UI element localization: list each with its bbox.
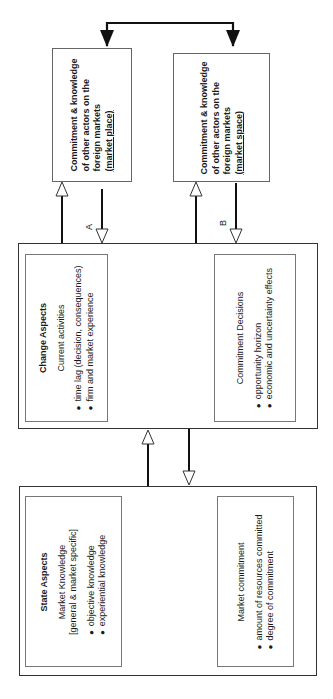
market-commitment-heading: Market commitment xyxy=(235,514,247,649)
market-knowledge-text: State Aspects Market Knowledge [general … xyxy=(39,528,109,634)
hollow-arrow-up-icon xyxy=(190,182,202,196)
hollow-arrow-down-icon xyxy=(183,471,195,485)
bullet-item: experiential knowledge xyxy=(97,528,109,634)
market-space-box: Commitment & knowledge of other actors o… xyxy=(173,53,270,182)
text-line: of other actors on the xyxy=(210,61,222,174)
hollow-arrow-up-icon xyxy=(56,182,68,196)
state-aspects-title: State Aspects xyxy=(39,528,51,634)
state-aspects-box: State Aspects Market Knowledge [general … xyxy=(19,486,317,676)
filled-arrow-down-icon xyxy=(100,30,114,47)
market-knowledge-subheading: [general & market specific] xyxy=(68,528,80,634)
change-aspects-box: Change Aspects Current activities time l… xyxy=(18,243,318,429)
filled-arrow-down-icon xyxy=(226,30,240,47)
text-line: Commitment & knowledge xyxy=(199,61,211,174)
text-line: Commitment & knowledge xyxy=(69,58,81,171)
current-activities-box: Change Aspects Current activities time l… xyxy=(25,254,108,422)
bullet-item: economic and uncertainty effects xyxy=(264,268,276,408)
current-activities-text: Change Aspects Current activities time l… xyxy=(38,266,96,411)
market-knowledge-heading: Market Knowledge xyxy=(56,528,68,634)
bullet-item: amount of resources committed xyxy=(253,514,265,649)
bullet-item: opportunity horizon xyxy=(252,268,264,408)
change-aspects-title: Change Aspects xyxy=(38,266,50,411)
market-space-text: Commitment & knowledge of other actors o… xyxy=(199,61,245,174)
market-commitment-text: Market commitment amount of resources co… xyxy=(235,514,276,649)
commitment-decisions-heading: Commitment Decisions xyxy=(235,268,247,408)
bullet-item: degree of commitment xyxy=(264,514,276,649)
commitment-decisions-box: Commitment Decisions opportunity horizon… xyxy=(214,254,296,422)
text-line: of other actors on the xyxy=(81,58,93,171)
hollow-arrow-down-icon xyxy=(96,229,108,243)
commitment-decisions-text: Commitment Decisions opportunity horizon… xyxy=(235,268,276,408)
text-line: foreign markets xyxy=(222,61,234,174)
text-line: foreign markets xyxy=(92,58,104,171)
current-activities-heading: Current activities xyxy=(55,266,67,411)
bullet-item: firm and market experience xyxy=(84,266,96,411)
market-place-text: Commitment & knowledge of other actors o… xyxy=(69,58,115,171)
market-knowledge-box: State Aspects Market Knowledge [general … xyxy=(25,496,122,667)
hollow-arrow-down-icon xyxy=(230,229,242,243)
market-place-box: Commitment & knowledge of other actors o… xyxy=(52,48,132,182)
arrow-label-a: A xyxy=(84,224,94,230)
hollow-arrow-up-icon xyxy=(142,430,154,444)
market-commitment-box: Market commitment amount of resources co… xyxy=(217,496,294,667)
market-space-tag: (market space) xyxy=(233,61,245,174)
arrow-label-b: B xyxy=(218,220,228,226)
market-place-tag: (market place) xyxy=(104,58,116,171)
bullet-item: objective knowledge xyxy=(85,528,97,634)
bullet-item: time lag (decision, consequences) xyxy=(73,266,85,411)
